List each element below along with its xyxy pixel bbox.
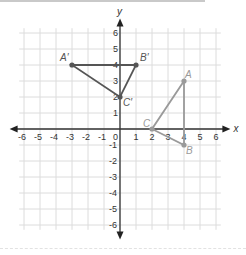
vertex-label: A: [184, 69, 192, 80]
vertex-label: B′: [140, 52, 150, 63]
y-tick-label: -5: [109, 204, 117, 214]
vertex-label: B: [186, 145, 193, 156]
x-tick-label: -1: [98, 132, 106, 142]
y-tick-label: 1: [113, 108, 118, 118]
y-tick-label: 3: [113, 76, 118, 86]
vertex-label: C: [143, 118, 151, 129]
x-tick-label: 5: [198, 132, 203, 142]
y-tick-label: -1: [109, 140, 117, 150]
y-tick-label: -6: [109, 220, 117, 230]
y-axis-down-arrow-icon: [117, 231, 124, 239]
y-tick-label: -3: [109, 172, 117, 182]
x-tick-label: 1: [134, 132, 139, 142]
y-tick-label: 6: [113, 28, 118, 38]
x-tick-label: -2: [82, 132, 90, 142]
x-axis-left-arrow-icon: [10, 126, 18, 133]
y-tick-label: 5: [113, 44, 118, 54]
x-axis-label: x: [233, 123, 240, 134]
x-tick-label: 2: [150, 132, 155, 142]
x-tick-label: -3: [66, 132, 74, 142]
coordinate-plane: xy-6-5-4-3-2-10123456654321-1-2-3-4-5-6A…: [0, 0, 246, 255]
y-tick-label: -2: [109, 156, 117, 166]
vertex-point: [69, 62, 74, 67]
y-tick-label: -4: [109, 188, 117, 198]
vertex-point: [117, 94, 122, 99]
x-tick-label: -4: [50, 132, 58, 142]
y-axis-up-arrow-icon: [117, 19, 124, 27]
y-axis-label: y: [116, 6, 123, 17]
x-tick-label: 6: [214, 132, 219, 142]
x-tick-label: -5: [34, 132, 42, 142]
x-axis-right-arrow-icon: [222, 126, 230, 133]
vertex-label: A′: [59, 52, 70, 63]
vertex-label: C′: [123, 97, 133, 108]
x-tick-label: -6: [18, 132, 26, 142]
vertex-point: [133, 62, 138, 67]
